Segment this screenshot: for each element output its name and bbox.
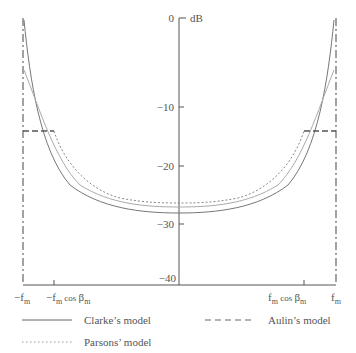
y-label-40: −40 (159, 272, 177, 284)
x-label-neg-fm-cos-beta: −fm cos βm (46, 291, 91, 306)
y-label-30: −30 (157, 218, 175, 230)
legend-parsons-label: Parsons’ model (84, 336, 151, 348)
x-label-neg-fm: −fm (14, 291, 31, 306)
y-label-20: −20 (157, 160, 175, 172)
x-label-fm-cos-beta: fm cos βm (268, 291, 307, 306)
y-ticks (179, 18, 186, 224)
legend-aulin-label: Aulin’s model (268, 314, 331, 326)
x-label-fm: fm (331, 291, 342, 306)
legend-clarke-label: Clarke’s model (84, 314, 151, 326)
legend: Clarke’s model Aulin’s model Parsons’ mo… (22, 314, 331, 348)
y-label-10: −10 (157, 101, 175, 113)
y-label-0: 0 (169, 12, 175, 24)
y-unit-label: dB (190, 12, 203, 24)
doppler-spectrum-chart: 0 dB −10 −20 −30 −40 −fm −fm cos βm fm c… (0, 0, 356, 353)
